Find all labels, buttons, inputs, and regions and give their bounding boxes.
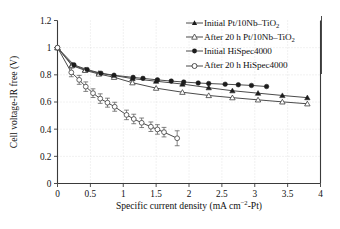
open-triangle-icon [185,32,204,42]
filled-circle-icon [185,46,204,56]
chart-legend: Initial Pt/10Nb–TiO2 After 20 h Pt/10Nb–… [182,16,322,74]
svg-text:1.2: 1.2 [40,16,52,26]
svg-text:3: 3 [252,189,257,199]
svg-text:0.6: 0.6 [40,97,52,107]
chart-figure: 00.511.522.533.5400.20.40.60.811.2 Speci… [0,0,340,229]
svg-text:0.5: 0.5 [85,189,97,199]
svg-text:0: 0 [47,179,52,189]
svg-text:0.8: 0.8 [40,70,52,80]
legend-label: After 20 h Pt/10Nb–TiO2 [204,32,295,43]
y-axis-title: Cell voltage-IR free (V) [8,56,20,148]
svg-text:0: 0 [55,189,60,199]
svg-text:3.5: 3.5 [282,189,294,199]
svg-text:1.5: 1.5 [150,189,162,199]
svg-text:0.4: 0.4 [40,125,52,135]
svg-text:2.5: 2.5 [216,189,228,199]
legend-label: Initial Pt/10Nb–TiO2 [204,18,279,29]
legend-label: Initial HiSpec4000 [204,46,272,57]
x-axis-title: Specific current density (mA cm−2-Pt) [116,199,262,212]
legend-item-initial-ptnbtio2[interactable]: Initial Pt/10Nb–TiO2 [182,16,321,30]
svg-text:2: 2 [187,189,192,199]
svg-text:1: 1 [121,189,126,199]
legend-label: After 20 h HiSpec4000 [204,60,287,71]
legend-item-after20h-ptnbtio2[interactable]: After 20 h Pt/10Nb–TiO2 [182,30,321,44]
legend-item-after20h-hispec4000[interactable]: After 20 h HiSpec4000 [182,59,321,73]
filled-triangle-icon [185,18,204,28]
legend-item-initial-hispec4000[interactable]: Initial HiSpec4000 [182,44,321,58]
open-circle-icon [185,61,204,71]
svg-text:0.2: 0.2 [40,152,52,162]
svg-text:4: 4 [318,189,323,199]
svg-text:1: 1 [47,43,52,53]
series-open-circle [55,45,179,145]
